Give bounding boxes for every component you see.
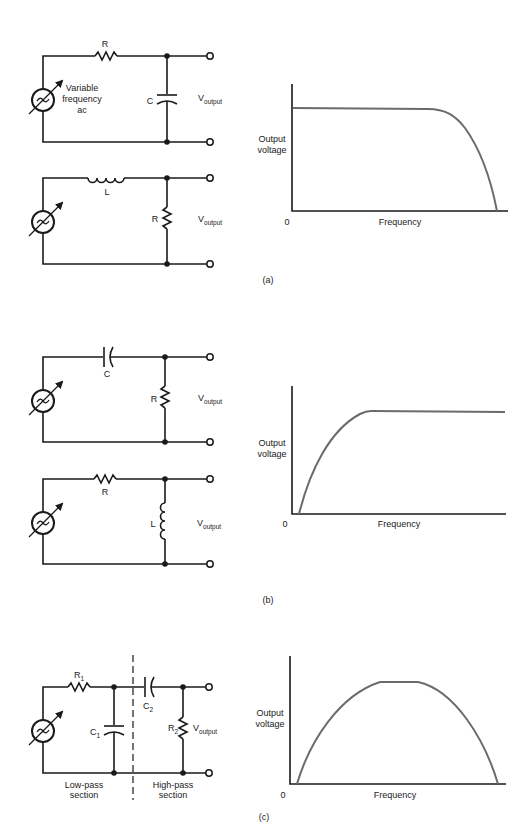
shunt-label: R — [151, 394, 158, 404]
ac-source-icon — [29, 712, 62, 745]
inductor-icon — [88, 178, 124, 183]
output-terminal-icon — [207, 175, 213, 181]
shunt-label: L — [150, 519, 155, 529]
output-label: Voutput — [198, 93, 222, 106]
node-dot-icon — [111, 684, 117, 690]
output-label: Voutput — [193, 723, 217, 736]
shunt-label: C — [147, 96, 154, 106]
output-terminal-icon — [207, 439, 213, 445]
response-curve — [293, 108, 497, 211]
series-label: R — [102, 487, 109, 497]
node-dot-icon — [111, 770, 117, 776]
panel-b: C R Voutput R — [29, 347, 506, 605]
node-dot-icon — [180, 684, 186, 690]
resistor-icon — [161, 386, 169, 408]
c2-label: C2 — [143, 701, 154, 713]
node-dot-icon — [162, 354, 168, 360]
chart-lowpass: Output voltage 0 Frequency — [257, 84, 508, 227]
y-axis-label-line1: Output — [258, 438, 286, 448]
section-right-line2: section — [159, 790, 188, 800]
figure-canvas: R C Variable frequency ac Voutput — [0, 0, 526, 832]
section-right-line1: High-pass — [153, 780, 194, 790]
node-dot-icon — [162, 561, 168, 567]
shunt-label: R — [152, 214, 159, 224]
node-dot-icon — [164, 139, 170, 145]
chart-axes — [290, 656, 506, 784]
node-dot-icon — [164, 175, 170, 181]
panel-caption: (a) — [263, 275, 274, 285]
circuit-rc-lowpass: R C Variable frequency ac Voutput — [29, 39, 222, 145]
output-terminal-icon — [206, 770, 212, 776]
output-terminal-icon — [207, 476, 213, 482]
resistor-icon — [95, 52, 117, 60]
x-axis-label: Frequency — [379, 217, 422, 227]
r2-label: R2 — [168, 723, 179, 735]
resistor-icon — [163, 207, 171, 229]
resistor-icon — [179, 717, 187, 739]
origin-label: 0 — [280, 790, 285, 800]
origin-label: 0 — [284, 217, 289, 227]
r1-label: R1 — [74, 670, 85, 682]
y-axis-label-line1: Output — [256, 708, 284, 718]
panel-caption: (c) — [259, 812, 270, 822]
section-left-line1: Low-pass — [65, 780, 104, 790]
node-dot-icon — [162, 439, 168, 445]
circuit-cr-highpass: C R Voutput — [29, 347, 222, 445]
node-dot-icon — [164, 53, 170, 59]
source-label-line1: Variable — [66, 83, 98, 93]
chart-bandpass: Output voltage 0 Frequency — [255, 656, 506, 800]
chart-highpass: Output voltage 0 Frequency — [257, 386, 506, 529]
node-dot-icon — [162, 476, 168, 482]
y-axis-label-line2: voltage — [257, 449, 286, 459]
response-curve — [297, 682, 498, 784]
output-label: Voutput — [197, 518, 221, 531]
output-terminal-icon — [207, 261, 213, 267]
source-label-line3: ac — [77, 105, 87, 115]
ac-source-icon — [29, 382, 62, 415]
series-label: R — [102, 39, 109, 49]
resistor-icon — [68, 683, 90, 691]
ac-source-icon — [29, 504, 62, 537]
output-terminal-icon — [207, 561, 213, 567]
inductor-icon — [161, 503, 166, 539]
y-axis-label-line2: voltage — [257, 145, 286, 155]
node-dot-icon — [164, 261, 170, 267]
ac-source-icon — [29, 81, 62, 114]
output-terminal-icon — [206, 684, 212, 690]
y-axis-label-line2: voltage — [255, 719, 284, 729]
circuit-bandpass: R1 C1 C2 R2 Voutput Low-pass section Hig… — [29, 655, 217, 800]
circuit-rl-highpass: R L Voutput — [29, 475, 221, 567]
output-terminal-icon — [207, 139, 213, 145]
c1-label: C1 — [90, 727, 101, 739]
section-left-line2: section — [70, 790, 99, 800]
output-terminal-icon — [207, 53, 213, 59]
ac-source-icon — [29, 203, 62, 236]
x-axis-label: Frequency — [378, 519, 421, 529]
panel-a: R C Variable frequency ac Voutput — [29, 39, 508, 285]
x-axis-label: Frequency — [374, 790, 417, 800]
series-label: C — [104, 369, 111, 379]
node-dot-icon — [180, 770, 186, 776]
output-terminal-icon — [207, 354, 213, 360]
response-curve — [299, 411, 505, 514]
circuit-rl-lowpass: L R Voutput — [29, 175, 222, 267]
output-label: Voutput — [198, 393, 222, 406]
panel-caption: (b) — [263, 595, 274, 605]
origin-label: 0 — [282, 519, 287, 529]
y-axis-label-line1: Output — [258, 134, 286, 144]
panel-c: R1 C1 C2 R2 Voutput Low-pass section Hig… — [29, 655, 506, 822]
series-label: L — [104, 187, 109, 197]
source-label-line2: frequency — [62, 94, 102, 104]
resistor-icon — [94, 475, 116, 483]
output-label: Voutput — [198, 214, 222, 227]
